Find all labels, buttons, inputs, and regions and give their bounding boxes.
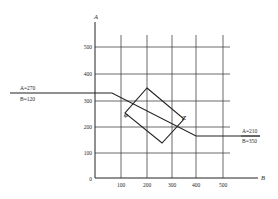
- svg-text:400: 400: [84, 71, 93, 77]
- left-annotation-A: A=270: [20, 85, 36, 91]
- svg-text:500: 500: [219, 182, 228, 188]
- grid-horizontal: [95, 47, 230, 153]
- svg-text:100: 100: [117, 182, 126, 188]
- svg-text:100: 100: [84, 150, 93, 156]
- y-tick-labels: 0 100 200 300 400 500: [84, 44, 93, 182]
- x-axis-label: B: [261, 174, 265, 181]
- svg-text:400: 400: [192, 182, 201, 188]
- svg-text:300: 300: [168, 182, 177, 188]
- x-tick-labels: 100 200 300 400 500: [117, 182, 228, 188]
- svg-text:200: 200: [84, 124, 93, 130]
- right-annotation-A: A=210: [242, 128, 258, 134]
- trajectory-path: [10, 93, 260, 136]
- right-annotation-B: B=350: [242, 138, 257, 144]
- grid-vertical: [121, 35, 223, 178]
- svg-text:500: 500: [84, 44, 93, 50]
- svg-text:200: 200: [143, 182, 152, 188]
- y-axis-label: A: [93, 13, 98, 20]
- point-z-label: Z: [181, 114, 187, 122]
- trajectory-diagram: A B 0 100 200 300 400 500 100 200 300 40…: [0, 0, 278, 199]
- point-phi-label: φ: [124, 111, 128, 119]
- svg-text:300: 300: [84, 98, 93, 104]
- left-annotation-B: B=120: [20, 96, 35, 102]
- rotated-rectangle: [125, 88, 184, 143]
- svg-text:0: 0: [89, 176, 92, 182]
